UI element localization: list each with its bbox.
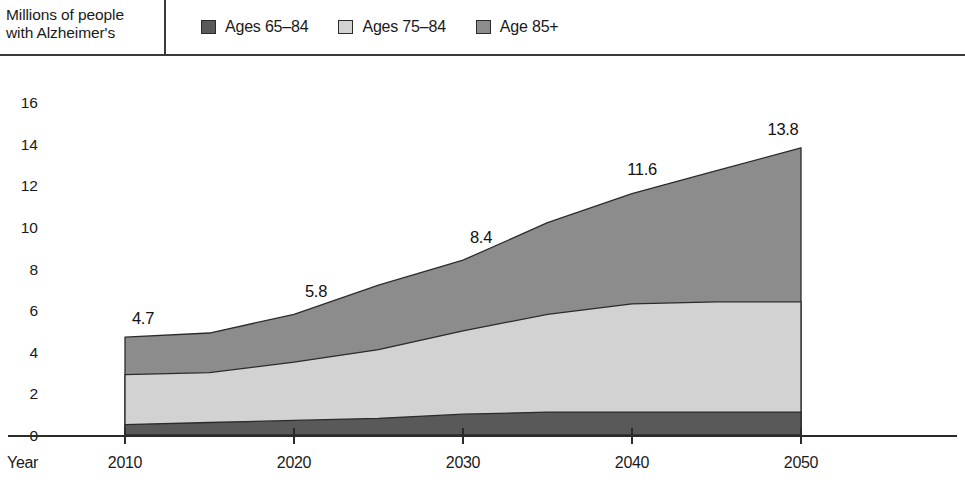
legend-item-ages-75-84[interactable]: Ages 75–84 bbox=[338, 18, 445, 36]
chart-legend: Ages 65–84 Ages 75–84 Age 85+ bbox=[166, 0, 965, 54]
y-tick-label: 6 bbox=[29, 302, 38, 319]
legend-label: Ages 75–84 bbox=[362, 18, 445, 36]
x-axis-tick-labels: 20102020203020402050Year bbox=[7, 454, 819, 471]
y-tick-label: 14 bbox=[21, 136, 39, 153]
legend-swatch-icon bbox=[201, 20, 216, 34]
legend-swatch-icon bbox=[338, 20, 353, 34]
x-tick-label: 2040 bbox=[615, 454, 650, 471]
chart-plot-area: 0246810121416 20102020203020402050Year 4… bbox=[0, 56, 965, 483]
legend-label: Age 85+ bbox=[500, 18, 559, 36]
x-axis-title: Year bbox=[7, 454, 39, 471]
legend-swatch-icon bbox=[476, 20, 491, 34]
y-axis-title: Millions of people with Alzheimer's bbox=[6, 6, 124, 42]
data-point-label: 13.8 bbox=[768, 120, 799, 138]
legend-item-age-85-plus[interactable]: Age 85+ bbox=[476, 18, 559, 36]
y-tick-label: 4 bbox=[29, 344, 38, 361]
x-tick-label: 2050 bbox=[784, 454, 819, 471]
legend-label: Ages 65–84 bbox=[225, 18, 308, 36]
y-axis-tick-labels: 0246810121416 bbox=[21, 94, 39, 444]
y-tick-label: 2 bbox=[29, 385, 38, 402]
x-tick-label: 2030 bbox=[446, 454, 481, 471]
area-series-group bbox=[125, 148, 801, 435]
y-tick-label: 12 bbox=[21, 177, 38, 194]
y-tick-label: 8 bbox=[29, 261, 38, 278]
stacked-area-chart: 0246810121416 20102020203020402050Year 4… bbox=[0, 56, 965, 483]
x-tick-label: 2010 bbox=[108, 454, 143, 471]
data-point-label: 4.7 bbox=[132, 309, 154, 327]
y-tick-label: 16 bbox=[21, 94, 38, 111]
y-tick-label: 10 bbox=[21, 219, 39, 236]
x-tick-label: 2020 bbox=[277, 454, 312, 471]
y-axis-title-box: Millions of people with Alzheimer's bbox=[0, 0, 166, 54]
data-point-label: 11.6 bbox=[627, 160, 657, 178]
data-point-label: 5.8 bbox=[305, 282, 327, 300]
chart-header: Millions of people with Alzheimer's Ages… bbox=[0, 0, 965, 56]
legend-item-ages-65-84[interactable]: Ages 65–84 bbox=[201, 18, 308, 36]
data-point-label: 8.4 bbox=[470, 228, 492, 246]
